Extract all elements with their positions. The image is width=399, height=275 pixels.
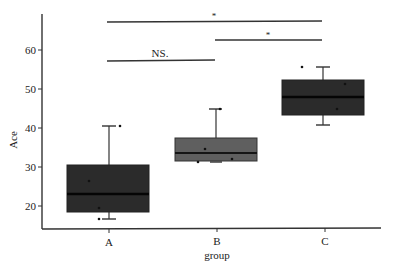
y-tick-label: 30 xyxy=(25,161,37,173)
significance-annotations: * * NS. xyxy=(107,11,322,61)
y-ticks: 20 30 40 50 60 xyxy=(25,44,42,212)
x-tick-label: B xyxy=(213,235,220,247)
sig-label-a-c: * xyxy=(212,11,217,21)
x-tick-label: A xyxy=(105,236,113,248)
y-tick-label: 60 xyxy=(25,44,37,56)
y-axis-label: Ace xyxy=(7,131,19,149)
sig-line-a-b xyxy=(107,60,215,61)
box-plot-chart: 20 30 40 50 60 Ace A B C group xyxy=(0,0,399,275)
sig-label-b-c: * xyxy=(266,30,271,40)
y-tick-label: 50 xyxy=(25,83,37,95)
x-tick-label: C xyxy=(321,235,328,247)
box-group-c xyxy=(282,66,364,125)
x-axis-label: group xyxy=(204,249,230,261)
sig-line-a-c xyxy=(107,21,322,22)
x-axis-line xyxy=(42,228,381,229)
x-ticks: A B C xyxy=(105,228,329,248)
y-tick-label: 20 xyxy=(25,200,37,212)
box-group-b xyxy=(175,108,257,164)
box-group-a xyxy=(67,125,149,221)
sig-label-a-b: NS. xyxy=(152,47,169,59)
y-tick-label: 40 xyxy=(25,122,37,134)
